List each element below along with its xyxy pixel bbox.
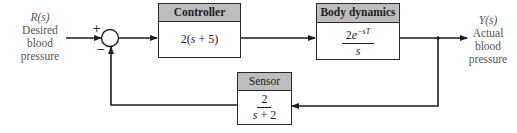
output-desc-line: Actual [463,27,513,40]
input-desc-line: Desired [14,24,66,37]
output-label: Y(s) Actual blood pressure [463,14,513,66]
input-label: R(s) Desired blood pressure [14,11,66,63]
input-desc-line: blood [14,37,66,50]
sensor-block[interactable]: Sensor 2 s + 2 [237,72,292,125]
input-signal: R(s) [14,11,66,24]
plus-sign: + [92,22,101,35]
controller-title: Controller [159,4,240,22]
body-dynamics-title: Body dynamics [317,4,399,23]
body-dynamics-block[interactable]: Body dynamics 2e−sT s [316,3,400,60]
output-desc-line: blood [463,40,513,53]
block-diagram: R(s) Desired blood pressure + − Controll… [0,0,517,133]
input-desc-line: pressure [14,50,66,63]
controller-transfer-function: 2(s + 5) [159,22,240,57]
body-dynamics-transfer-function: 2e−sT s [317,23,399,59]
sensor-title: Sensor [238,73,291,91]
output-desc-line: pressure [463,53,513,66]
output-signal: Y(s) [463,14,513,27]
minus-sign: − [96,43,105,56]
sensor-transfer-function: 2 s + 2 [238,91,291,124]
controller-block[interactable]: Controller 2(s + 5) [158,3,241,58]
